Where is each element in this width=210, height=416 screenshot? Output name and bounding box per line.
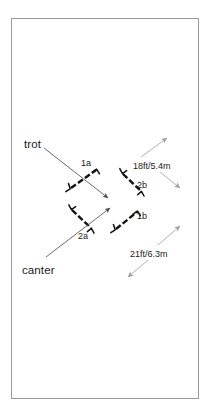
jump-wing-1a-left	[66, 184, 70, 192]
diagram-graphics	[0, 0, 210, 416]
jump-label-1a: 1a	[81, 159, 91, 168]
distance-arrow-21ft-lower	[128, 260, 148, 277]
jump-wing-2a-top	[69, 205, 76, 210]
course-diagram-page: trot canter 1a 2b 2a 1b 18ft/5.4m 21ft/6…	[0, 0, 210, 416]
jump-label-2a: 2a	[78, 232, 88, 241]
jump-marker-1a	[66, 169, 100, 191]
jump-wing-2a-bottom	[87, 228, 94, 233]
jump-marker-2a	[69, 205, 94, 233]
gait-label-trot: trot	[24, 139, 41, 151]
distance-label-21ft: 21ft/6.3m	[130, 250, 168, 259]
distance-arrow-18ft-upper	[141, 138, 167, 157]
distance-label-18ft: 18ft/5.4m	[133, 162, 171, 171]
jump-label-2b: 2b	[137, 181, 147, 190]
jump-wing-1b-left	[111, 225, 115, 233]
distance-arrow-21ft-upper	[158, 226, 180, 245]
jump-wing-2b-bottom	[138, 191, 144, 196]
gait-label-canter: canter	[22, 265, 55, 277]
jump-rail-2a	[72, 210, 91, 228]
distance-arrow-18ft-lower	[160, 172, 180, 188]
jump-label-1b: 1b	[137, 212, 147, 221]
jump-marker-1b	[111, 211, 141, 233]
jump-wing-2b-top	[120, 169, 127, 174]
